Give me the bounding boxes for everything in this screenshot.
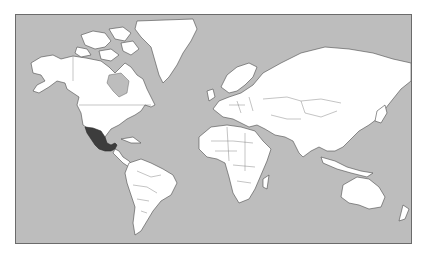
- madagascar: [263, 175, 269, 189]
- uk-ireland: [207, 89, 215, 101]
- south-america: [125, 159, 177, 235]
- indonesia: [321, 157, 373, 177]
- australia: [341, 177, 385, 209]
- world-map-svg: [16, 15, 412, 244]
- greenland: [135, 19, 197, 83]
- canadian-arctic-islands: [75, 27, 139, 61]
- cuba: [121, 137, 141, 143]
- north-america: [31, 19, 197, 167]
- new-zealand: [399, 205, 409, 221]
- world-map: [15, 14, 412, 244]
- africa: [199, 125, 271, 203]
